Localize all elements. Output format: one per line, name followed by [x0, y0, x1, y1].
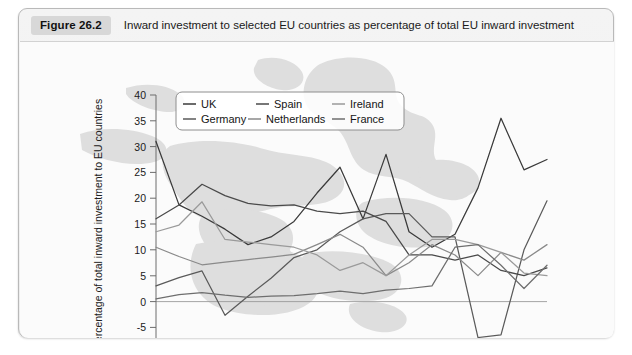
- y-tick-label: -5: [137, 321, 146, 333]
- figure-number-badge: Figure 26.2: [31, 16, 111, 35]
- chart-plot-area: 40 35 30 25 20 15 10 5 0 -5 -10 Percenta…: [20, 42, 614, 338]
- y-axis: 40 35 30 25 20 15 10 5 0 -5 -10: [131, 89, 156, 338]
- y-tick-label: 20: [134, 192, 146, 204]
- y-tick-label: 10: [134, 244, 146, 256]
- y-tick-label: 0: [140, 296, 146, 308]
- legend-label-uk: UK: [201, 98, 217, 110]
- y-tick-label: 25: [134, 166, 146, 178]
- legend-label-spain: Spain: [274, 98, 302, 110]
- y-tick-label: 15: [134, 218, 146, 230]
- y-axis-title: Percentage of total inward investment to…: [92, 99, 104, 338]
- y-axis-ticks: [150, 95, 156, 338]
- figure-header: Figure 26.2 Inward investment to selecte…: [19, 9, 613, 41]
- figure-title: Inward investment to selected EU countri…: [124, 19, 574, 31]
- line-chart: 40 35 30 25 20 15 10 5 0 -5 -10 Percenta…: [20, 42, 614, 338]
- y-tick-label: 30: [134, 141, 146, 153]
- y-tick-label: 35: [134, 115, 146, 127]
- figure-card: Figure 26.2 Inward investment to selecte…: [18, 8, 614, 338]
- chart-legend: UK Germany Spain Netherlands Ireland Fra…: [176, 92, 404, 130]
- legend-label-ireland: Ireland: [350, 98, 384, 110]
- legend-label-germany: Germany: [201, 113, 247, 125]
- y-tick-label: 5: [140, 270, 146, 282]
- y-tick-label: 40: [134, 89, 146, 101]
- legend-label-france: France: [350, 113, 384, 125]
- legend-label-netherlands: Netherlands: [266, 113, 326, 125]
